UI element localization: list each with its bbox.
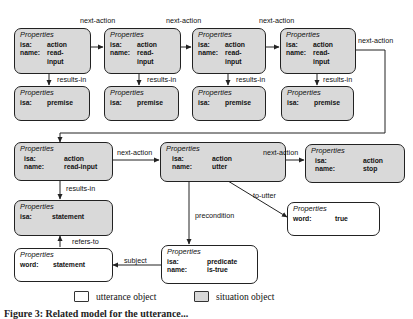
properties-header: Properties (20, 89, 84, 97)
prop-key: isa: (172, 155, 212, 163)
edge-label-subject: subject (124, 256, 147, 265)
prop-value: action (137, 41, 157, 49)
prop-value: true (335, 215, 348, 223)
prop-value: premise (47, 99, 73, 107)
node-read-input-3: Properties isa:action name:read- input (192, 28, 266, 74)
prop-key: isa: (20, 41, 47, 49)
prop-value: action (47, 41, 67, 49)
prop-key: name: (110, 49, 137, 65)
prop-value: stop (363, 165, 377, 173)
legend-situation-label: situation object (216, 292, 274, 302)
edge-label-results-in-3: results-in (236, 75, 265, 84)
properties-header: Properties (287, 89, 348, 97)
edge-label-next-action-4: next-action (358, 36, 393, 45)
prop-value: predicate (207, 258, 237, 266)
properties-header: Properties (20, 145, 107, 153)
properties-header: Properties (293, 205, 374, 213)
node-statement: Properties isa:statement (14, 200, 113, 236)
edge-label-next-action-2: next-action (166, 16, 201, 25)
prop-value: read- input (313, 49, 330, 65)
prop-key: isa: (110, 41, 137, 49)
prop-value: premise (314, 99, 340, 107)
prop-value: read-input (64, 163, 97, 171)
properties-header: Properties (286, 31, 350, 39)
edge-label-results-in-1: results-in (57, 75, 86, 84)
prop-key: isa: (286, 41, 313, 49)
node-premise-3: Properties isa:premise (192, 86, 266, 121)
prop-key: word: (20, 261, 53, 269)
prop-key: name: (167, 266, 207, 274)
properties-header: Properties (167, 248, 252, 256)
node-premise-4: Properties isa:premise (281, 86, 354, 121)
figure-caption: Figure 3: Related model for the utteranc… (4, 308, 188, 319)
prop-key: name: (286, 49, 313, 65)
prop-value: is-true (207, 266, 228, 274)
prop-key: isa: (20, 99, 47, 107)
node-premise-1: Properties isa:premise (14, 86, 90, 121)
properties-header: Properties (311, 147, 399, 155)
prop-value: statement (53, 261, 85, 269)
edge-label-results-in-5: results-in (66, 184, 95, 193)
prop-key: name: (198, 49, 225, 65)
edge-label-next-action-6: next-action (263, 148, 298, 157)
edge-label-precondition: precondition (195, 211, 234, 220)
node-stop: Properties isa:action name:stop (305, 144, 405, 183)
properties-header: Properties (198, 89, 260, 97)
prop-value: action (363, 157, 383, 165)
prop-key: isa: (110, 99, 137, 107)
node-read-input-4: Properties isa:action name:read- input (280, 28, 356, 74)
properties-header: Properties (110, 89, 173, 97)
edge-label-refers-to: refers-to (72, 237, 99, 246)
properties-header: Properties (20, 251, 107, 259)
prop-key: isa: (20, 213, 52, 221)
edge-label-next-action-3: next-action (259, 16, 294, 25)
legend-situation: situation object (194, 291, 274, 302)
prop-key: word: (293, 215, 335, 223)
prop-key: isa: (167, 258, 207, 266)
node-read-input-5: Properties isa:action name:read-input (14, 142, 113, 181)
node-word-true: Properties word:true (287, 202, 380, 236)
edge-label-next-action-1: next-action (80, 16, 115, 25)
node-predicate: Properties isa:predicate name:is-true (161, 245, 258, 284)
legend-utterance: utterance object (74, 291, 156, 302)
prop-value: action (212, 155, 232, 163)
prop-key: name: (20, 49, 47, 65)
prop-value: statement (52, 213, 84, 221)
prop-value: utter (212, 163, 227, 171)
edge-label-results-in-2: results-in (147, 75, 176, 84)
node-word-statement: Properties word:statement (14, 248, 113, 282)
prop-key: isa: (198, 99, 225, 107)
properties-header: Properties (20, 31, 85, 39)
prop-value: read- input (225, 49, 242, 65)
prop-key: name: (315, 165, 363, 173)
node-read-input-2: Properties isa:action name:read- input (104, 28, 181, 74)
prop-key: isa: (24, 155, 64, 163)
prop-value: action (225, 41, 245, 49)
properties-header: Properties (110, 31, 175, 39)
edge-label-next-action-5: next-action (117, 148, 152, 157)
prop-value: action (313, 41, 333, 49)
prop-value: read- input (137, 49, 154, 65)
node-read-input-1: Properties isa:action name:read- input (14, 28, 91, 74)
prop-key: isa: (315, 157, 363, 165)
prop-key: isa: (198, 41, 225, 49)
prop-key: isa: (287, 99, 314, 107)
edge-label-results-in-4: results-in (323, 75, 352, 84)
edge-label-to-utter: to-utter (253, 191, 276, 200)
node-premise-2: Properties isa:premise (104, 86, 179, 121)
situation-swatch (194, 291, 209, 302)
legend-utterance-label: utterance object (96, 292, 156, 302)
prop-key: name: (172, 163, 212, 171)
properties-header: Properties (20, 203, 107, 211)
prop-key: name: (24, 163, 64, 171)
utterance-swatch (74, 291, 89, 302)
prop-value: action (64, 155, 84, 163)
prop-value: premise (137, 99, 163, 107)
prop-value: read- input (47, 49, 64, 65)
prop-value: premise (225, 99, 251, 107)
properties-header: Properties (198, 31, 260, 39)
